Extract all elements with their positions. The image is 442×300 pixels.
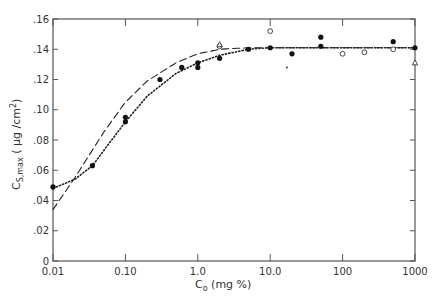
filled-circle-marker bbox=[123, 115, 128, 120]
open-circle-marker bbox=[268, 29, 273, 34]
filled-circle-marker bbox=[391, 39, 396, 44]
filled-circle-marker bbox=[318, 35, 323, 40]
filled-circle-marker bbox=[217, 56, 222, 61]
x-axis-label: Co (mg %) bbox=[195, 278, 251, 293]
y-tick-label: .10 bbox=[33, 104, 49, 115]
filled-circle-marker bbox=[157, 77, 162, 82]
y-tick-label: .14 bbox=[33, 44, 49, 55]
y-tick-label: .16 bbox=[33, 14, 49, 25]
filled-circle-marker bbox=[50, 184, 55, 189]
fit-curves bbox=[53, 48, 415, 210]
dotted-fit-curve bbox=[53, 48, 415, 189]
open-circle-marker bbox=[362, 50, 367, 55]
filled-circle-marker bbox=[246, 47, 251, 52]
filled-circle-marker bbox=[268, 45, 273, 50]
y-tick-label: 0 bbox=[43, 256, 49, 267]
filled-circle-marker bbox=[123, 119, 128, 124]
filled-circle-marker bbox=[289, 51, 294, 56]
x-axis-ticks: 0.010.101.010.01001000 bbox=[42, 19, 428, 277]
y-tick-label: .06 bbox=[33, 165, 49, 176]
chart-canvas: 0.02.04.06.08.10.12.14.16 0.010.101.010.… bbox=[0, 0, 442, 300]
filled-circle-marker bbox=[90, 163, 95, 168]
open-triangle-marker bbox=[412, 60, 417, 65]
y-axis-ticks: 0.02.04.06.08.10.12.14.16 bbox=[33, 14, 415, 267]
y-tick-label: .02 bbox=[33, 225, 49, 236]
data-points bbox=[50, 29, 417, 190]
x-tick-label: 1000 bbox=[402, 266, 427, 277]
plot-frame bbox=[53, 19, 415, 261]
filled-circle-marker bbox=[318, 44, 323, 49]
filled-circle-marker bbox=[179, 65, 184, 70]
filled-circle-marker bbox=[195, 60, 200, 65]
x-tick-label: 0.10 bbox=[114, 266, 136, 277]
open-circle-marker bbox=[391, 47, 396, 52]
filled-circle-marker bbox=[412, 45, 417, 50]
x-tick-label: 1.0 bbox=[190, 266, 206, 277]
x-tick-label: 10.0 bbox=[259, 266, 281, 277]
dashed-fit-curve bbox=[53, 48, 415, 210]
filled-circle-marker bbox=[195, 65, 200, 70]
y-axis-label: CS,max ( μg /cm2) bbox=[9, 99, 25, 190]
plot-border bbox=[53, 19, 415, 261]
y-tick-label: .12 bbox=[33, 74, 49, 85]
small-dot-marker bbox=[286, 66, 288, 68]
y-tick-label: .08 bbox=[33, 135, 49, 146]
x-tick-label: 100 bbox=[333, 266, 352, 277]
x-tick-label: 0.01 bbox=[42, 266, 64, 277]
y-tick-label: .04 bbox=[33, 195, 49, 206]
open-circle-marker bbox=[340, 51, 345, 56]
